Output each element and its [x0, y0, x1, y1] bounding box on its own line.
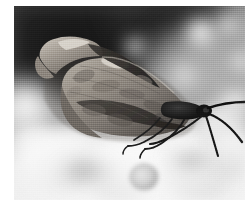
butterfly	[14, 6, 245, 200]
photograph	[14, 6, 245, 200]
leg-mid-tarsus	[123, 146, 128, 154]
leg-front-tarsus	[140, 149, 145, 158]
antenna-lower-2	[206, 116, 218, 156]
antenna-lower	[209, 114, 242, 142]
antenna-upper	[208, 102, 245, 108]
